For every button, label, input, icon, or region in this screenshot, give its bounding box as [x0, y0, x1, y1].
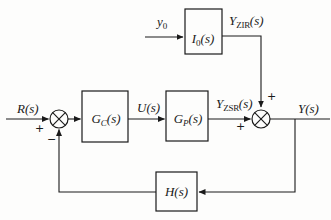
- yzir-signal-label: YZIR(s): [229, 14, 264, 27]
- gp-block-label: GP(s): [174, 112, 203, 125]
- sum2-plus-top-sign: +: [267, 91, 276, 102]
- i0-block-label: I0(s): [192, 32, 215, 45]
- r-signal-label: R(s): [17, 102, 39, 115]
- u-signal-label: U(s): [137, 101, 160, 114]
- h-block-label: H(s): [165, 185, 188, 198]
- y-signal-label: Y(s): [298, 102, 319, 115]
- gc-block-label: GC(s): [91, 112, 120, 125]
- sum1-minus-sign: −: [47, 134, 56, 145]
- sum2-plus-left-sign: +: [236, 121, 245, 132]
- y0-signal-label: y0: [157, 15, 167, 28]
- block-diagram: I0(s) GC(s) GP(s) H(s) y0 YZIR(s) R(s) U…: [0, 0, 331, 220]
- feedback-wire-left: [59, 130, 156, 193]
- sum1-plus-sign: +: [35, 123, 44, 134]
- feedback-wire-right: [199, 119, 295, 192]
- yzsr-signal-label: YZSR(s): [216, 97, 253, 110]
